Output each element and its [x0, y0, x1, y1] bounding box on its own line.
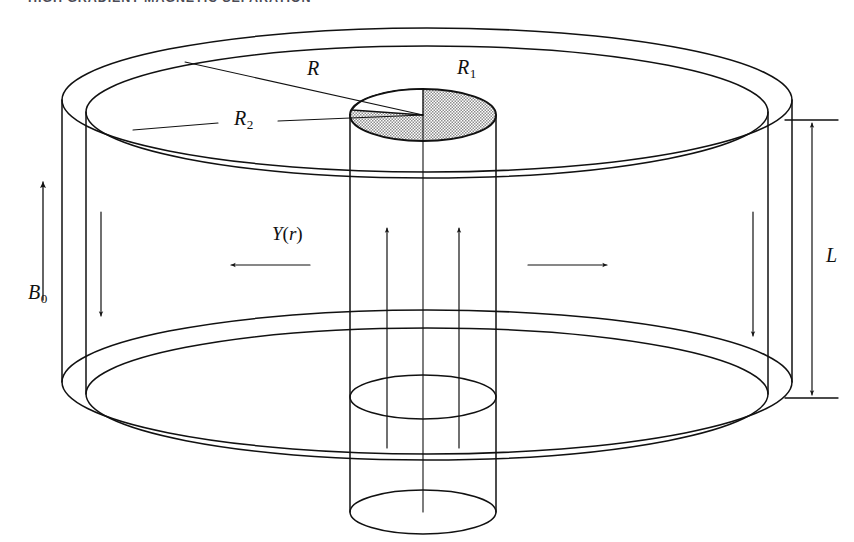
outer-bottom-rim-ellipse	[62, 310, 792, 454]
label-R: R	[307, 58, 319, 78]
outer-bottom-inner-ellipse	[86, 328, 768, 460]
label-Y-of-r: Y(r)	[272, 224, 303, 243]
label-B0: B0	[28, 282, 47, 305]
radius-R2-leader-left	[133, 123, 218, 130]
radius-R-leader	[185, 62, 423, 115]
figure-page: HIGH GRADIENT MAGNETIC SEPARATION	[0, 0, 854, 542]
label-R1: R1	[457, 57, 476, 80]
label-L: L	[826, 245, 837, 265]
hgms-canister-diagram	[0, 0, 854, 542]
label-R2: R2	[234, 108, 253, 131]
